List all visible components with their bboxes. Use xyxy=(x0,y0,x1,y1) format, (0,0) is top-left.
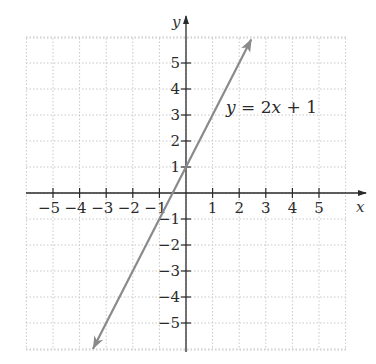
y-axis-label: y xyxy=(171,13,181,31)
x-tick-label: 2 xyxy=(234,199,244,217)
axes xyxy=(26,16,366,352)
x-tick-label: −4 xyxy=(65,199,87,217)
y-tick-label: 3 xyxy=(170,106,180,124)
x-tick-label: −2 xyxy=(118,199,140,217)
x-tick-label: 4 xyxy=(288,199,298,217)
x-tick-label: −5 xyxy=(38,199,60,217)
x-tick-label: 5 xyxy=(314,199,324,217)
y-tick-label: 4 xyxy=(170,80,180,98)
x-tick-label: −3 xyxy=(91,199,113,217)
y-tick-label: −3 xyxy=(158,262,180,280)
x-tick-label: 1 xyxy=(208,199,218,217)
y-tick-label: −1 xyxy=(158,210,180,228)
x-axis-label: x xyxy=(356,198,365,216)
y-tick-label: −5 xyxy=(158,314,180,332)
x-tick-label: 3 xyxy=(261,199,271,217)
y-tick-label: 5 xyxy=(170,54,180,72)
equation-label: y = 2x + 1 xyxy=(225,97,317,117)
y-tick-label: −2 xyxy=(158,236,180,254)
coordinate-plane: −5−4−3−2−112345−5−4−3−2−112345 x y y = 2… xyxy=(0,0,376,364)
y-tick-label: −4 xyxy=(158,288,180,306)
y-tick-label: 2 xyxy=(170,132,180,150)
y-tick-label: 1 xyxy=(170,158,180,176)
